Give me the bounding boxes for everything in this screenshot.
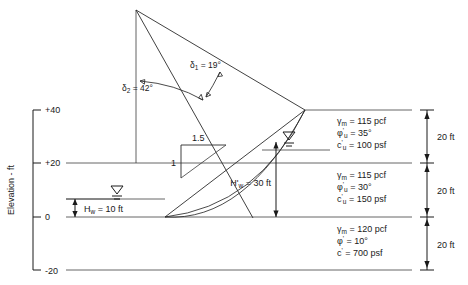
axis-tick-label-0: 0 bbox=[45, 212, 50, 222]
lower-friction-angle: φ' = 10° bbox=[337, 235, 368, 246]
soil-properties-lower: γm = 120 pcf φ' = 10° c' = 700 psf bbox=[337, 224, 387, 258]
thickness-dimensions: 20 ft 20 ft 20 ft bbox=[420, 110, 455, 270]
water-table-triangle-left bbox=[111, 186, 123, 194]
dim-arrow-middle-top bbox=[424, 165, 429, 172]
dim-arrow-upper-top bbox=[424, 112, 429, 119]
dim-arrow-upper-bottom bbox=[424, 154, 429, 161]
elevation-axis: +40 +20 0 -20 Elevation - ft bbox=[6, 105, 60, 276]
dim-arrow-lower-bottom bbox=[424, 261, 429, 268]
hwprime-arrowhead-top bbox=[273, 142, 278, 149]
ratio-triangle-hypotenuse bbox=[181, 145, 226, 178]
thickness-label-upper: 20 ft bbox=[437, 132, 455, 142]
hw-label: Hw = 10 ft bbox=[84, 204, 123, 215]
upper-unit-weight: γm = 115 pcf bbox=[337, 116, 387, 127]
soil-properties-middle: γm = 115 pcf φ'u = 30° c'u = 150 psf bbox=[337, 170, 387, 205]
upper-cohesion: c'u = 100 psf bbox=[337, 139, 387, 151]
delta-1-arrowhead-top bbox=[218, 72, 223, 77]
delta-2-arrowhead-right bbox=[199, 94, 203, 100]
slope-ratio-vertical-label: 1 bbox=[171, 158, 176, 168]
soil-properties-upper: γm = 115 pcf φ'u = 35° c'u = 100 psf bbox=[337, 116, 387, 151]
dim-arrow-lower-top bbox=[424, 219, 429, 226]
lower-cohesion: c' = 700 psf bbox=[337, 247, 383, 258]
slope-stability-diagram: +40 +20 0 -20 Elevation - ft bbox=[0, 0, 468, 285]
thickness-label-lower: 20 ft bbox=[437, 240, 455, 250]
slope-ratio-horizontal-label: 1.5 bbox=[192, 133, 205, 143]
hw-arrowhead-bottom bbox=[72, 211, 77, 217]
middle-friction-angle: φ'u = 30° bbox=[337, 181, 372, 193]
axis-tick-label-20: +20 bbox=[45, 158, 60, 168]
thickness-label-middle: 20 ft bbox=[437, 186, 455, 196]
upper-friction-angle: φ'u = 35° bbox=[337, 127, 372, 139]
middle-cohesion: c'u = 150 psf bbox=[337, 193, 387, 205]
delta-1-arrowhead-bottom bbox=[206, 92, 211, 97]
water-table-left: Hw = 10 ft bbox=[66, 186, 165, 217]
hwprime-label: H'w = 30 ft bbox=[230, 178, 271, 189]
angle-annotations: δ1 = 19° δ2 = 42° bbox=[122, 60, 223, 100]
axis-tick-label-minus20: -20 bbox=[45, 266, 58, 276]
delta-1-label: δ1 = 19° bbox=[190, 60, 221, 71]
delta-2-label: δ2 = 42° bbox=[122, 83, 153, 94]
dim-arrow-middle-bottom bbox=[424, 208, 429, 215]
axis-tick-label-40: +40 bbox=[45, 105, 60, 115]
figure-container: +40 +20 0 -20 Elevation - ft bbox=[0, 0, 468, 285]
lower-unit-weight: γm = 120 pcf bbox=[337, 224, 387, 235]
hwprime-arrowhead-bottom bbox=[273, 211, 278, 218]
slope-face-line bbox=[165, 110, 305, 217]
axis-title: Elevation - ft bbox=[6, 164, 16, 215]
middle-unit-weight: γm = 115 pcf bbox=[337, 170, 387, 181]
hw-arrowhead-top bbox=[72, 199, 77, 205]
